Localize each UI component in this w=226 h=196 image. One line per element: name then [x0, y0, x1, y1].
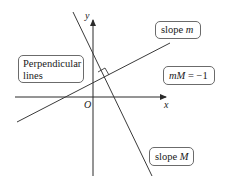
slope-M-prefix: slope: [155, 151, 180, 162]
origin-label: O: [84, 100, 91, 110]
perpendicular-lines-diagram: y x O Perpendicular lines slope m mM = −…: [0, 0, 226, 196]
slope-M-callout: slope M: [149, 147, 194, 166]
line-slope-M: [73, 12, 152, 176]
right-angle-marker: [98, 68, 109, 75]
slope-m-var: m: [186, 24, 194, 35]
relation-rhs: −1: [197, 70, 208, 81]
slope-M-var: M: [180, 151, 189, 162]
relation-callout: mM = −1: [163, 66, 215, 85]
slope-m-prefix: slope: [161, 24, 186, 35]
y-axis-label: y: [85, 11, 89, 21]
perpendicular-lines-callout: Perpendicular lines: [18, 55, 84, 83]
relation-eq: =: [185, 70, 196, 81]
callout-line-2: lines: [23, 70, 79, 82]
x-axis-label: x: [164, 100, 168, 110]
callout-line-1: Perpendicular: [23, 58, 79, 70]
slope-m-callout: slope m: [155, 21, 201, 39]
relation-lhs: mM: [169, 70, 185, 81]
